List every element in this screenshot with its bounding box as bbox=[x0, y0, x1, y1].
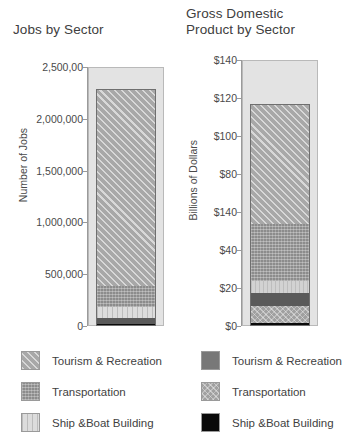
y-tick-label-jobs-2500000: 2,500,00 bbox=[42, 61, 83, 73]
legend-item-transportation[interactable]: Transportation bbox=[0, 376, 175, 407]
legend-swatch-icon-tourism-recreation bbox=[201, 351, 220, 370]
legend-swatch-icon-tourism-recreation bbox=[21, 351, 40, 370]
chart-title-jobs: Jobs by Sector bbox=[13, 22, 104, 38]
y-tick-mark bbox=[83, 222, 87, 223]
chart-panel-jobs-by-sector: Jobs by Sector Number of Jobs 2,500,00 2… bbox=[0, 0, 175, 340]
bar-segment-tourism-recreation[interactable] bbox=[97, 90, 155, 286]
y-tick-mark bbox=[83, 171, 87, 172]
bar-segment-transportation[interactable] bbox=[251, 224, 309, 281]
legend-label-ship-boat-building: Ship &Boat Building bbox=[52, 417, 154, 429]
y-tick-label-gdp-0: $0 bbox=[225, 320, 237, 332]
stacked-bar-gdp[interactable] bbox=[250, 104, 310, 326]
bar-segment-transportation[interactable] bbox=[97, 286, 155, 307]
legend-swatch-icon-ship-boat-building bbox=[201, 413, 220, 432]
y-tick-mark bbox=[83, 119, 87, 120]
legend-label-transportation: Transportation bbox=[52, 386, 126, 398]
y-tick-mark bbox=[83, 274, 87, 275]
legend-item-ship-boat-building[interactable]: Ship &Boat Building bbox=[175, 407, 350, 438]
bar-segment-living-resources[interactable] bbox=[97, 324, 155, 326]
legend-gdp: Tourism & Recreation Transportation Ship… bbox=[175, 345, 350, 438]
y-tick-mark bbox=[237, 60, 241, 61]
y-tick-mark bbox=[83, 67, 87, 68]
y-tick-label-gdp-40: $40 bbox=[219, 244, 237, 256]
y-tick-mark bbox=[83, 326, 87, 327]
bar-segment-ship-boat-building[interactable] bbox=[251, 281, 309, 293]
y-tick-label-jobs-2000000: 2,000,000 bbox=[36, 113, 83, 125]
legend-item-tourism-recreation[interactable]: Tourism & Recreation bbox=[0, 345, 175, 376]
legend-swatch-icon-ship-boat-building bbox=[21, 413, 40, 432]
legend-item-tourism-recreation[interactable]: Tourism & Recreation bbox=[175, 345, 350, 376]
y-tick-label-gdp-60: $140 bbox=[214, 206, 237, 218]
y-tick-mark bbox=[237, 326, 241, 327]
legend-jobs: Tourism & Recreation Transportation Ship… bbox=[0, 345, 175, 438]
y-axis-title-gdp: Billions of Dollars bbox=[187, 140, 199, 221]
figure-stacked-bar-charts: Jobs by Sector Number of Jobs 2,500,00 2… bbox=[0, 0, 350, 440]
bar-segment-ship-boat-building[interactable] bbox=[97, 307, 155, 318]
y-tick-mark bbox=[237, 98, 241, 99]
bar-segment-minerals[interactable] bbox=[251, 323, 309, 326]
y-tick-mark bbox=[237, 174, 241, 175]
legend-swatch-icon-transportation bbox=[201, 382, 220, 401]
stacked-bar-jobs[interactable] bbox=[96, 89, 156, 326]
y-tick-label-jobs-1500000: 1,500,000 bbox=[36, 165, 83, 177]
legend-item-transportation[interactable]: Transportation bbox=[175, 376, 350, 407]
chart-panel-gdp-by-sector: Gross Domestic Product by Sector Billion… bbox=[175, 0, 350, 340]
y-tick-mark bbox=[237, 136, 241, 137]
y-tick-label-jobs-1000000: 1,000,000 bbox=[36, 216, 83, 228]
legend-item-ship-boat-building[interactable]: Ship &Boat Building bbox=[0, 407, 175, 438]
y-tick-mark bbox=[237, 250, 241, 251]
y-tick-label-gdp-120: $120 bbox=[214, 92, 237, 104]
y-tick-label-gdp-20: $20 bbox=[219, 282, 237, 294]
bar-segment-tourism-recreation[interactable] bbox=[251, 105, 309, 224]
legend-label-tourism-recreation: Tourism & Recreation bbox=[232, 355, 342, 367]
legend-swatch-icon-transportation bbox=[21, 382, 40, 401]
y-tick-label-jobs-500000: 500,000 bbox=[45, 268, 83, 280]
y-axis-title-jobs: Number of Jobs bbox=[17, 128, 29, 202]
legend-label-transportation: Transportation bbox=[232, 386, 306, 398]
y-tick-label-gdp-100: $100 bbox=[214, 130, 237, 142]
y-tick-label-gdp-80: $80 bbox=[219, 168, 237, 180]
bar-segment-living-resources[interactable] bbox=[251, 306, 309, 323]
bar-segment-marine-construction[interactable] bbox=[251, 293, 309, 306]
y-tick-mark bbox=[237, 212, 241, 213]
y-tick-label-gdp-140: $140 bbox=[214, 54, 237, 66]
legend-label-tourism-recreation: Tourism & Recreation bbox=[52, 355, 162, 367]
y-tick-mark bbox=[237, 288, 241, 289]
chart-title-gdp: Gross Domestic Product by Sector bbox=[186, 6, 295, 38]
legend-label-ship-boat-building: Ship &Boat Building bbox=[232, 417, 334, 429]
